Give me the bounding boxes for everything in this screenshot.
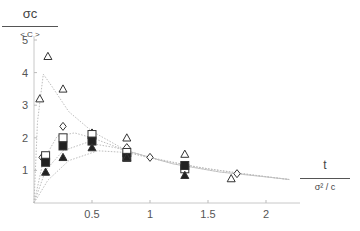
- y-axis-label-denominator: < C >: [0, 30, 60, 39]
- y-tick-label: 3: [22, 99, 28, 111]
- x-tick-label: 2: [263, 208, 269, 220]
- open-square-marker: [59, 134, 67, 142]
- fit-curves: [34, 74, 289, 203]
- filled-square-marker: [59, 142, 67, 150]
- filled-triangle-marker: [59, 153, 67, 160]
- open-triangle-marker: [44, 52, 52, 59]
- x-tick-label: 0.5: [84, 208, 99, 220]
- x-axis-label-denominator: σ² / c: [300, 182, 350, 192]
- filled-triangle-marker: [42, 168, 50, 175]
- x-tick-label: 1: [147, 208, 153, 220]
- y-tick-label: 4: [22, 67, 28, 79]
- diamond-marker: [234, 170, 240, 178]
- open-triangle-marker: [36, 95, 44, 102]
- x-tick-label: 1.5: [200, 208, 215, 220]
- curve-4: [34, 151, 289, 203]
- curve-1: [34, 74, 289, 203]
- open-triangle-marker: [123, 134, 131, 141]
- y-tick-label: 1: [22, 164, 28, 176]
- diamond-marker: [60, 122, 66, 130]
- x-axis-label-numerator: t: [300, 158, 350, 172]
- diamond-marker: [147, 153, 153, 161]
- y-axis-fraction-bar: [2, 26, 58, 27]
- filled-square-marker: [181, 162, 189, 170]
- y-tick-label: 2: [22, 132, 28, 144]
- open-triangle-marker: [227, 175, 235, 182]
- open-triangle-marker: [59, 85, 67, 92]
- open-triangle-marker: [181, 150, 189, 157]
- curve-2: [34, 133, 289, 203]
- y-axis-label-numerator: σc: [0, 6, 60, 21]
- filled-square-marker: [42, 158, 50, 166]
- curve-3: [34, 143, 289, 203]
- x-axis-fraction-bar: [300, 178, 350, 179]
